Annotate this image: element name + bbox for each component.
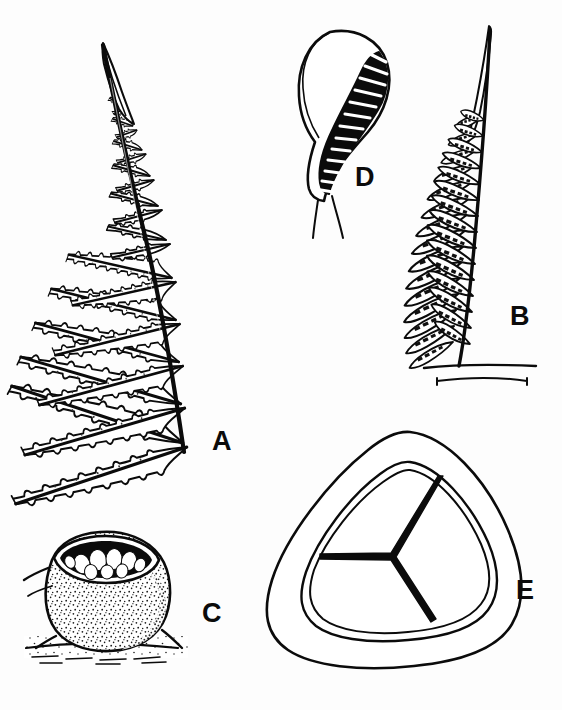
panel-label-b: B (510, 303, 530, 330)
panel-label-d: D (355, 164, 375, 191)
panel-label-c: C (202, 600, 222, 627)
plate-artwork (0, 0, 562, 710)
panel-label-e: E (516, 577, 534, 604)
panel-label-a: A (212, 428, 232, 455)
illustration-plate: A B C D E (0, 0, 562, 710)
